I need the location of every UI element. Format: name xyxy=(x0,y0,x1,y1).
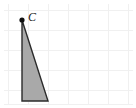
triangle-shape xyxy=(22,20,48,101)
figure-layer xyxy=(0,0,136,108)
vertex-label-c: C xyxy=(28,11,36,23)
vertex-point-c xyxy=(19,17,24,22)
geometry-diagram: C xyxy=(0,0,136,108)
